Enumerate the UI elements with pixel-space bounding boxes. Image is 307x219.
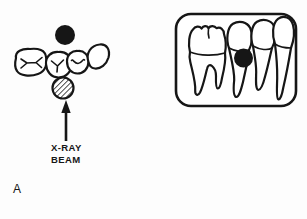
xray-beam-arrow-icon — [61, 100, 70, 141]
black-sphere-object-icon — [55, 25, 75, 45]
occlusal-premolar-tooth — [67, 51, 89, 74]
occlusal-view-group: X-RAY BEAM A — [13, 25, 109, 196]
dental-xray-diagram: X-RAY BEAM A — [0, 0, 307, 219]
hatched-sphere-object-icon — [53, 78, 74, 99]
panel-label: A — [13, 182, 21, 196]
xray-beam-label-line1: X-RAY — [51, 142, 82, 153]
film-black-sphere-shadow-icon — [234, 49, 253, 68]
occlusal-canine-tooth — [88, 44, 109, 68]
radiograph-film-group — [176, 14, 296, 106]
xray-beam-label-line2: BEAM — [51, 154, 81, 165]
diagram-figure: X-RAY BEAM A — [0, 0, 307, 219]
